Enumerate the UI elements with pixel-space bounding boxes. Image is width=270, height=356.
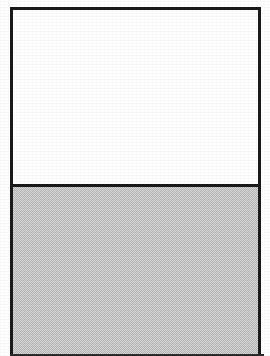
figure-frame — [10, 7, 261, 356]
panel-lower-gray — [13, 187, 258, 356]
figure-root — [0, 0, 270, 356]
panel-upper-white — [13, 10, 258, 184]
